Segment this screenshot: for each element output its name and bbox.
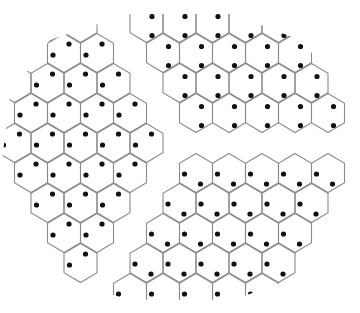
lattice-dot bbox=[182, 93, 187, 98]
lattice-dot bbox=[116, 291, 121, 296]
lattice-dot bbox=[232, 44, 237, 49]
lattice-dot bbox=[281, 171, 286, 176]
lattice-dot bbox=[199, 44, 204, 49]
lattice-dot bbox=[280, 271, 285, 276]
lattice-dot bbox=[17, 71, 22, 76]
lattice-dot bbox=[280, 211, 285, 216]
lattice-dot bbox=[215, 231, 220, 236]
lattice-dot bbox=[166, 63, 171, 68]
lattice-dot bbox=[1, 142, 6, 147]
lattice-dot bbox=[298, 44, 303, 49]
lattice-dot bbox=[231, 181, 236, 186]
lattice-dot bbox=[99, 161, 104, 166]
lattice-dot bbox=[182, 171, 187, 176]
lattice-dot bbox=[116, 131, 121, 136]
lattice-dot bbox=[297, 201, 302, 206]
lattice-dot bbox=[198, 201, 203, 206]
lattice-dot bbox=[198, 181, 203, 186]
lattice-dot bbox=[66, 41, 71, 46]
lattice-dot bbox=[232, 104, 237, 109]
lattice-dot bbox=[232, 63, 237, 68]
lattice-dot bbox=[214, 271, 219, 276]
lattice-dot bbox=[99, 221, 104, 226]
cell-edges bbox=[0, 4, 345, 313]
lattice-dot bbox=[83, 191, 88, 196]
lattice-dot bbox=[116, 191, 121, 196]
lattice-dot bbox=[298, 63, 303, 68]
lattice-dot bbox=[50, 131, 55, 136]
lattice-dot bbox=[116, 112, 121, 117]
lattice-dot bbox=[331, 123, 336, 128]
lattice-dot bbox=[50, 112, 55, 117]
lattice-dot bbox=[83, 112, 88, 117]
lattice-dot bbox=[264, 261, 269, 266]
lattice-dot bbox=[265, 63, 270, 68]
lattice-dot bbox=[265, 104, 270, 109]
lattice-dot bbox=[83, 251, 88, 256]
lattice-dot bbox=[17, 172, 22, 177]
lattice-dot bbox=[50, 71, 55, 76]
lattice-dot bbox=[50, 172, 55, 177]
lattice-dot bbox=[281, 93, 286, 98]
lattice-dot bbox=[132, 101, 137, 106]
lattice-dot bbox=[298, 123, 303, 128]
lattice-dot bbox=[67, 202, 72, 207]
lattice-dot bbox=[247, 211, 252, 216]
lattice-dot bbox=[116, 71, 121, 76]
lattice-dot bbox=[182, 291, 187, 296]
lattice-dot bbox=[231, 201, 236, 206]
lattice-dot bbox=[100, 202, 105, 207]
lattice-dot bbox=[297, 181, 302, 186]
lattice-dot bbox=[198, 301, 203, 306]
hex-cell-domain-left bbox=[31, 4, 64, 43]
lattice-dot bbox=[182, 74, 187, 79]
lattice-dot bbox=[166, 44, 171, 49]
voronoi-hex-diagram bbox=[0, 0, 360, 313]
lattice-dot bbox=[298, 104, 303, 109]
lattice-dot bbox=[50, 11, 55, 16]
lattice-dot bbox=[67, 262, 72, 267]
lattice-dot bbox=[33, 101, 38, 106]
lattice-dot bbox=[149, 14, 154, 19]
lattice-dot bbox=[165, 261, 170, 266]
lattice-dot bbox=[231, 301, 236, 306]
lattice-dot bbox=[165, 201, 170, 206]
lattice-dot bbox=[50, 52, 55, 57]
lattice-dot bbox=[34, 22, 39, 27]
lattice-dot bbox=[67, 22, 72, 27]
lattice-dot bbox=[132, 161, 137, 166]
lattice-dot bbox=[67, 142, 72, 147]
lattice-dot bbox=[181, 211, 186, 216]
lattice-dot bbox=[66, 161, 71, 166]
lattice-dot bbox=[215, 74, 220, 79]
lattice-dot bbox=[148, 271, 153, 276]
lattice-dot bbox=[265, 123, 270, 128]
lattice-dot bbox=[214, 211, 219, 216]
lattice-dot bbox=[248, 291, 253, 296]
lattice-dot bbox=[281, 14, 286, 19]
lattice-dot bbox=[182, 33, 187, 38]
lattice-dot bbox=[248, 74, 253, 79]
lattice-dot bbox=[67, 82, 72, 87]
lattice-dot bbox=[248, 33, 253, 38]
lattice-dot bbox=[232, 123, 237, 128]
lattice-dot bbox=[99, 101, 104, 106]
lattice-dot bbox=[330, 181, 335, 186]
lattice-dot bbox=[132, 301, 137, 306]
lattice-dot bbox=[215, 291, 220, 296]
lattice-dot bbox=[314, 74, 319, 79]
lattice-dot bbox=[247, 271, 252, 276]
lattice-dot bbox=[149, 33, 154, 38]
lattice-dot bbox=[264, 301, 269, 306]
lattice-dot bbox=[248, 231, 253, 236]
lattice-dot bbox=[281, 231, 286, 236]
lattice-dot bbox=[231, 241, 236, 246]
lattice-dot bbox=[199, 104, 204, 109]
lattice-dot bbox=[297, 241, 302, 246]
lattice-dot bbox=[248, 171, 253, 176]
lattice-dot bbox=[165, 241, 170, 246]
lattice-dot bbox=[132, 261, 137, 266]
lattice-dot bbox=[313, 211, 318, 216]
lattice-dot bbox=[66, 221, 71, 226]
lattice-dot bbox=[264, 201, 269, 206]
